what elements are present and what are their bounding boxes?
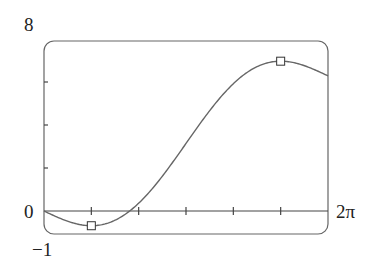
plot-frame xyxy=(44,41,328,234)
x-max-label: 2π xyxy=(336,202,355,221)
plot-area xyxy=(0,0,375,273)
data-curve xyxy=(44,61,328,226)
local-min-marker xyxy=(87,222,95,230)
origin-label: 0 xyxy=(24,202,34,221)
y-max-label: 8 xyxy=(24,15,34,34)
local-max-marker xyxy=(277,57,285,65)
y-min-label: −1 xyxy=(32,240,52,259)
